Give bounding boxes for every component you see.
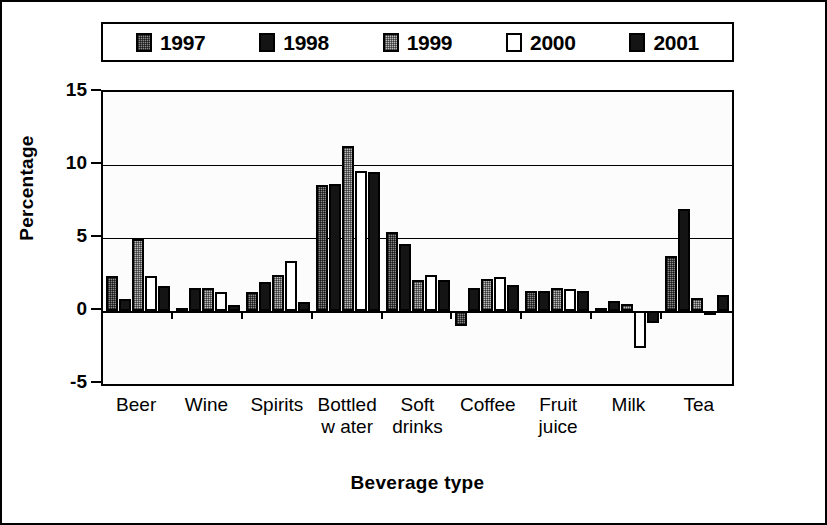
bar-group xyxy=(383,92,453,384)
x-axis-label-line: Fruit xyxy=(523,394,593,416)
y-axis-title: Percentage xyxy=(16,68,38,308)
bar-group-bars xyxy=(173,92,243,384)
bar-1999 xyxy=(202,288,214,311)
legend-swatch-1998 xyxy=(259,33,275,52)
bar-1997 xyxy=(455,311,467,326)
bar-group xyxy=(522,92,592,384)
legend-item-1998: 1998 xyxy=(259,32,329,53)
x-axis-label: Softdrinks xyxy=(382,394,452,454)
y-tick-mark-10 xyxy=(91,162,101,164)
x-axis-label-line: Beer xyxy=(101,394,171,416)
bar-stack xyxy=(386,92,450,384)
plot-area xyxy=(101,90,734,386)
x-axis-label: Milk xyxy=(593,394,663,454)
bar-2001 xyxy=(228,305,240,311)
bar-group xyxy=(662,92,732,384)
bar-stack xyxy=(246,92,310,384)
bar-group-bars xyxy=(662,92,732,384)
x-axis-label-line: Milk xyxy=(593,394,663,416)
bar-stack xyxy=(316,92,380,384)
bar-group-bars xyxy=(383,92,453,384)
bar-1999 xyxy=(412,280,424,311)
legend-label-2001: 2001 xyxy=(653,32,699,53)
bar-1998 xyxy=(259,282,271,311)
x-axis-label: Wine xyxy=(171,394,241,454)
bar-stack xyxy=(595,92,659,384)
bar-2001 xyxy=(507,285,519,311)
bar-1997 xyxy=(106,276,118,311)
chart-frame: 1997 1998 1999 2000 2001 151050-5 Percen… xyxy=(0,0,827,525)
y-tick-mark-5 xyxy=(91,235,101,237)
bar-group xyxy=(103,92,173,384)
bar-1997 xyxy=(525,291,537,311)
y-tick-mark-15 xyxy=(91,89,101,91)
x-axis-label: Beer xyxy=(101,394,171,454)
bar-2001 xyxy=(158,286,170,311)
x-axis-label: Bottledw ater xyxy=(312,394,382,454)
bar-group xyxy=(452,92,522,384)
bar-2000 xyxy=(145,276,157,311)
bar-1998 xyxy=(189,288,201,311)
x-axis-labels: BeerWineSpiritsBottledw aterSoftdrinksCo… xyxy=(101,394,734,454)
bar-2000 xyxy=(425,275,437,312)
bar-2001 xyxy=(717,295,729,311)
bar-2000 xyxy=(634,311,646,348)
y-axis: 151050-5 xyxy=(42,90,101,386)
bar-2001 xyxy=(298,302,310,311)
x-axis-label-line: Spirits xyxy=(242,394,312,416)
bar-2001 xyxy=(647,311,659,323)
bar-stack xyxy=(665,92,729,384)
legend-swatch-1999 xyxy=(383,33,399,52)
legend-label-1999: 1999 xyxy=(407,32,453,53)
bar-2000 xyxy=(355,171,367,311)
y-tick-label--5: -5 xyxy=(70,371,87,393)
bar-group xyxy=(243,92,313,384)
legend-item-1999: 1999 xyxy=(383,32,453,53)
bar-2000 xyxy=(494,277,506,311)
bar-1998 xyxy=(608,301,620,311)
legend-swatch-2001 xyxy=(629,33,645,52)
y-tick-label-10: 10 xyxy=(66,152,87,174)
x-axis-label-line: Coffee xyxy=(453,394,523,416)
bar-2001 xyxy=(577,291,589,311)
x-axis-label-line: Tea xyxy=(664,394,734,416)
x-axis-label-line: Wine xyxy=(171,394,241,416)
bar-1998 xyxy=(119,299,131,311)
x-axis-label: Coffee xyxy=(453,394,523,454)
y-tick-label-0: 0 xyxy=(76,298,87,320)
bar-1997 xyxy=(246,292,258,311)
bar-stack xyxy=(455,92,519,384)
bar-1997 xyxy=(386,232,398,311)
x-axis-title: Beverage type xyxy=(101,472,734,494)
bar-1997 xyxy=(316,185,328,311)
legend-label-1998: 1998 xyxy=(283,32,329,53)
legend-swatch-1997 xyxy=(136,33,152,52)
bar-1998 xyxy=(399,244,411,311)
bar-1999 xyxy=(272,275,284,312)
x-axis-label-line: drinks xyxy=(382,416,452,438)
bar-stack xyxy=(106,92,170,384)
bar-2000 xyxy=(564,289,576,311)
bar-2000 xyxy=(285,261,297,311)
legend-item-2000: 2000 xyxy=(506,32,576,53)
bar-1999 xyxy=(621,304,633,311)
legend-swatch-2000 xyxy=(506,33,522,52)
y-tick-mark--5 xyxy=(91,381,101,383)
bar-stack xyxy=(176,92,240,384)
bar-group-bars xyxy=(592,92,662,384)
bar-1998 xyxy=(678,209,690,311)
bar-groups xyxy=(103,92,732,384)
bar-group-bars xyxy=(243,92,313,384)
bar-1997 xyxy=(595,308,607,312)
x-axis-label-line: Soft xyxy=(382,394,452,416)
bar-group-bars xyxy=(522,92,592,384)
bar-stack xyxy=(525,92,589,384)
bar-1998 xyxy=(329,184,341,311)
bar-1999 xyxy=(132,239,144,311)
bar-1998 xyxy=(468,288,480,311)
legend-label-2000: 2000 xyxy=(530,32,576,53)
bar-2000 xyxy=(215,292,227,311)
x-axis-label-line: juice xyxy=(523,416,593,438)
bar-1999 xyxy=(551,288,563,311)
bar-1999 xyxy=(481,279,493,311)
